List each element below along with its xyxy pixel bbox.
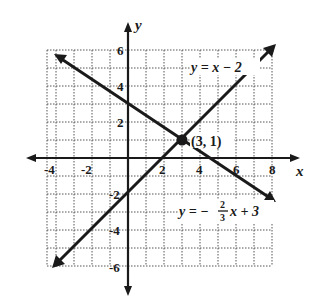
equation-label-2-suffix: x + 3	[229, 204, 259, 219]
equation-label-2-denominator: 3	[220, 212, 225, 223]
x-axis-arrow-left-icon	[26, 154, 36, 162]
x-tick: 6	[233, 162, 240, 177]
y-axis-label: y	[133, 17, 142, 33]
y-tick: 6	[117, 43, 124, 58]
y-tick: 2	[117, 115, 124, 130]
y-tick: -4	[109, 223, 120, 238]
annotations: y = x − 2 (3, 1) y = − 2 3 x + 3	[177, 58, 274, 224]
x-tick: 2	[159, 162, 166, 177]
x-tick: -2	[81, 162, 92, 177]
y-tick: -6	[109, 260, 120, 275]
y-tick: 4	[117, 79, 124, 94]
y-tick: -2	[109, 187, 120, 202]
y-axis-arrow-up-icon	[124, 22, 132, 32]
x-tick: -4	[44, 162, 55, 177]
x-tick: 4	[196, 162, 203, 177]
equation-label-1: y = x − 2	[189, 60, 242, 75]
x-axis-arrow-right-icon	[290, 154, 300, 162]
intersection-point	[178, 136, 186, 144]
coordinate-graph: -4 -2 2 4 6 8 x 6 4 2 -2 -4 -6 y y = x −…	[0, 0, 327, 304]
intersection-label: (3, 1)	[191, 134, 222, 150]
x-axis-label: x	[295, 163, 304, 179]
x-tick: 8	[269, 162, 276, 177]
equation-label-2-prefix: y = −	[177, 204, 209, 219]
equation-label-2-numerator: 2	[220, 199, 225, 210]
y-axis-arrow-down-icon	[124, 286, 132, 296]
